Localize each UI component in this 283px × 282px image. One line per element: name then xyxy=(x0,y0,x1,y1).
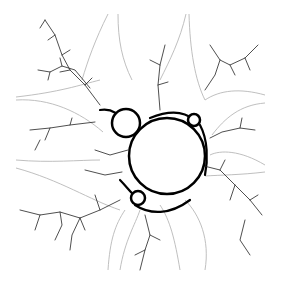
mandelbrot-fractal-image xyxy=(0,0,283,282)
bulbs xyxy=(112,109,205,205)
